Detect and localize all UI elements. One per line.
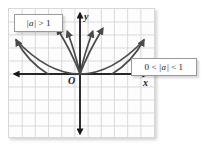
callout-steep-abs: |a| xyxy=(26,18,36,28)
y-axis-label: y xyxy=(84,12,88,22)
origin-label: O xyxy=(68,76,75,86)
callout-wide-relation-2: < xyxy=(171,62,176,72)
callout-wide-upper: 1 xyxy=(179,62,184,72)
x-axis-label: x xyxy=(143,78,148,88)
callout-wide-relation-1: < xyxy=(151,62,156,72)
callout-wide-condition: 0 < |a| < 1 xyxy=(131,58,197,76)
callout-wide-abs: |a| xyxy=(159,62,169,72)
callout-steep-relation: > xyxy=(39,18,44,28)
callout-steep-condition: |a| > 1 xyxy=(14,14,63,32)
parabola-family-figure: y x O |a| > 1 0 < |a| < 1 xyxy=(0,0,204,152)
callout-wide-lower: 0 xyxy=(145,62,150,72)
callout-steep-value: 1 xyxy=(46,18,51,28)
